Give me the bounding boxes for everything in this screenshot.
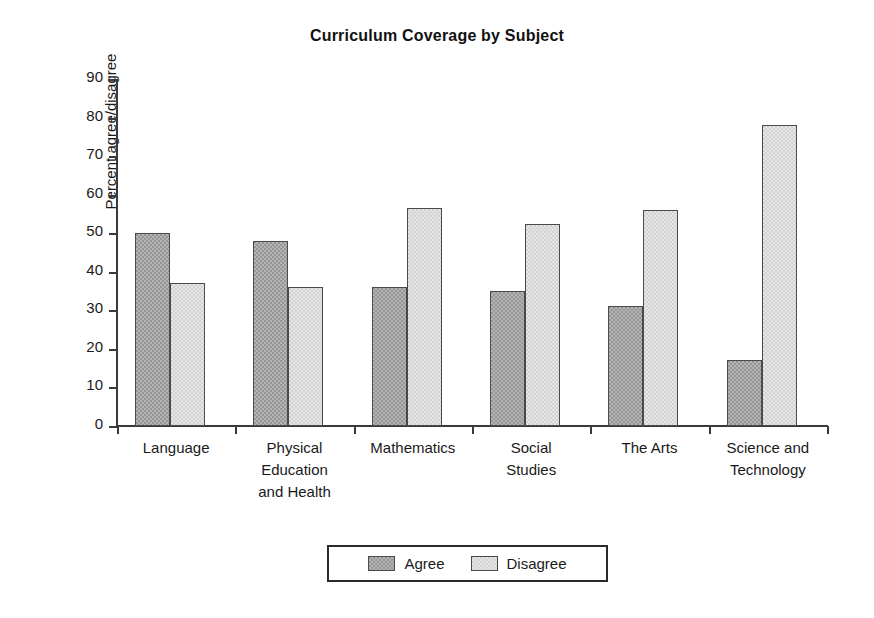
y-tick-mark	[109, 349, 117, 351]
legend-item-agree[interactable]: Agree	[368, 555, 444, 572]
y-tick-mark	[109, 233, 117, 235]
x-axis-label-2: Mathematics	[354, 437, 472, 459]
x-axis-label-4: The Arts	[590, 437, 708, 459]
x-tick-mark	[709, 426, 711, 434]
y-tick-mark	[109, 310, 117, 312]
bar-group	[117, 79, 235, 426]
x-tick-mark	[827, 426, 829, 434]
y-tick-label: 20	[43, 338, 103, 355]
x-axis-label-line: Science and	[709, 437, 827, 459]
x-axis-label-1: PhysicalEducationand Health	[235, 437, 353, 503]
x-tick-mark	[472, 426, 474, 434]
bar-disagree-1	[288, 287, 323, 426]
y-tick-label: 50	[43, 222, 103, 239]
y-tick-mark	[109, 426, 117, 428]
chart-legend: AgreeDisagree	[327, 545, 608, 582]
bar-group	[472, 79, 590, 426]
y-tick-mark	[109, 156, 117, 158]
x-axis-label-line: Studies	[472, 459, 590, 481]
y-tick-label: 30	[43, 299, 103, 316]
legend-label: Agree	[404, 555, 444, 572]
y-tick-label: 60	[43, 184, 103, 201]
x-axis-label-3: SocialStudies	[472, 437, 590, 481]
legend-swatch-disagree	[471, 556, 498, 571]
plot-area: 0102030405060708090	[117, 79, 827, 426]
bar-disagree-2	[407, 208, 442, 426]
bar-group	[354, 79, 472, 426]
y-tick-label: 70	[43, 145, 103, 162]
x-axis-label-line: Education	[235, 459, 353, 481]
x-axis-label-line: Technology	[709, 459, 827, 481]
x-axis-label-line: and Health	[235, 481, 353, 503]
y-tick-label: 80	[43, 107, 103, 124]
bar-agree-1	[253, 241, 288, 426]
y-tick-label: 10	[43, 376, 103, 393]
x-tick-mark	[590, 426, 592, 434]
y-tick-mark	[109, 272, 117, 274]
x-axis-label-line: Mathematics	[354, 437, 472, 459]
chart-title: Curriculum Coverage by Subject	[0, 27, 874, 45]
bar-agree-3	[490, 291, 525, 426]
bar-disagree-0	[170, 283, 205, 426]
bar-agree-4	[608, 306, 643, 426]
bar-group	[235, 79, 353, 426]
y-tick-mark	[109, 79, 117, 81]
bar-disagree-4	[643, 210, 678, 426]
bar-agree-2	[372, 287, 407, 426]
x-axis-label-line: Physical	[235, 437, 353, 459]
legend-item-disagree[interactable]: Disagree	[471, 555, 567, 572]
x-axis-label-5: Science andTechnology	[709, 437, 827, 481]
y-tick-label: 0	[43, 415, 103, 432]
y-tick-label: 40	[43, 261, 103, 278]
x-axis-label-line: The Arts	[590, 437, 708, 459]
x-axis-label-0: Language	[117, 437, 235, 459]
y-tick-mark	[109, 387, 117, 389]
bar-group	[590, 79, 708, 426]
bar-agree-0	[135, 233, 170, 426]
y-tick-label: 90	[43, 68, 103, 85]
bar-agree-5	[727, 360, 762, 426]
legend-label: Disagree	[507, 555, 567, 572]
bar-group	[709, 79, 827, 426]
bar-disagree-3	[525, 224, 560, 426]
legend-swatch-agree	[368, 556, 395, 571]
x-tick-mark	[117, 426, 119, 434]
y-tick-mark	[109, 118, 117, 120]
x-axis-label-line: Language	[117, 437, 235, 459]
chart-container: Curriculum Coverage by Subject Percent a…	[0, 0, 874, 618]
x-axis-label-line: Social	[472, 437, 590, 459]
x-tick-mark	[354, 426, 356, 434]
y-tick-mark	[109, 195, 117, 197]
x-tick-mark	[235, 426, 237, 434]
bar-disagree-5	[762, 125, 797, 426]
